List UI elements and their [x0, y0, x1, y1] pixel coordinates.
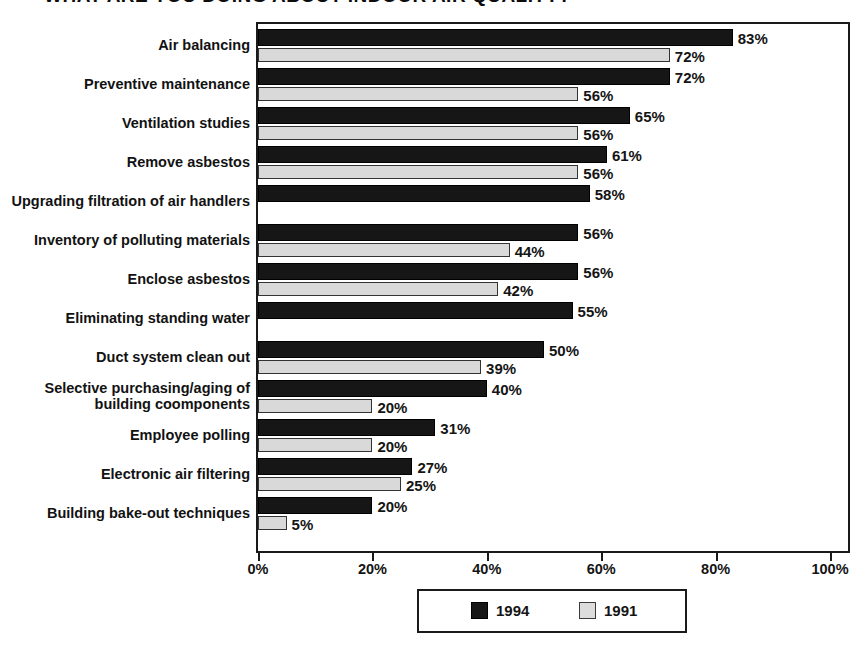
bar-value-label-1991: 20%: [377, 400, 407, 415]
bar-1994: [258, 107, 630, 124]
bar-value-label-1994: 50%: [549, 343, 579, 358]
x-axis-tick: [258, 553, 260, 561]
category-label: Air balancing: [0, 37, 250, 53]
category-label: Eliminating standing water: [0, 310, 250, 326]
bar-value-label-1994: 61%: [612, 148, 642, 163]
category-label: Employee polling: [0, 427, 250, 443]
category-axis-labels: Air balancingPreventive maintenanceVenti…: [0, 0, 250, 647]
category-label: Selective purchasing/aging of building c…: [0, 380, 250, 412]
category-label: Ventilation studies: [0, 115, 250, 131]
legend-swatch-icon-1994: [471, 602, 488, 619]
bar-1991: [258, 360, 481, 374]
legend-swatch-icon-1991: [579, 602, 596, 619]
bar-1994: [258, 458, 412, 475]
bar-1991: [258, 438, 372, 452]
bar-value-label-1991: 39%: [486, 361, 516, 376]
bar-1994: [258, 146, 607, 163]
bar-chart: Air balancingPreventive maintenanceVenti…: [0, 0, 866, 647]
chart-legend: 1994 1991: [417, 589, 687, 633]
x-axis-tick-label: 40%: [472, 561, 501, 577]
legend-label-1991: 1991: [604, 602, 637, 619]
bar-value-label-1991: 72%: [675, 49, 705, 64]
bar-1991: [258, 126, 578, 140]
x-axis-tick-label: 20%: [358, 561, 387, 577]
bar-value-label-1994: 31%: [440, 421, 470, 436]
bar-1994: [258, 341, 544, 358]
bar-1991: [258, 243, 510, 257]
bar-value-label-1991: 25%: [406, 478, 436, 493]
bar-1994: [258, 380, 487, 397]
category-label: Preventive maintenance: [0, 76, 250, 92]
bar-value-label-1991: 44%: [515, 244, 545, 259]
bar-value-label-1994: 56%: [583, 265, 613, 280]
x-axis-tick-labels: 0%20%40%60%80%100%: [0, 561, 866, 583]
x-axis-tick: [372, 553, 374, 561]
category-label: Electronic air filtering: [0, 466, 250, 482]
bar-1991: [258, 282, 498, 296]
bar-value-label-1991: 20%: [377, 439, 407, 454]
bar-value-label-1991: 42%: [503, 283, 533, 298]
bar-value-label-1994: 55%: [578, 304, 608, 319]
bar-1994: [258, 68, 670, 85]
bar-1994: [258, 302, 573, 319]
bar-1991: [258, 477, 401, 491]
bar-value-label-1991: 5%: [292, 517, 314, 532]
bar-value-label-1994: 72%: [675, 70, 705, 85]
bars-container: 83%72%72%56%65%56%61%56%58%56%44%56%42%5…: [258, 24, 848, 551]
bar-value-label-1991: 56%: [583, 127, 613, 142]
category-label: Inventory of polluting materials: [0, 232, 250, 248]
category-label: Enclose asbestos: [0, 271, 250, 287]
bar-1991: [258, 165, 578, 179]
bar-1994: [258, 29, 733, 46]
x-axis-tick: [487, 553, 489, 561]
bar-value-label-1991: 56%: [583, 88, 613, 103]
category-label: Remove asbestos: [0, 154, 250, 170]
bar-1994: [258, 263, 578, 280]
x-axis-tick-label: 80%: [701, 561, 730, 577]
legend-entry-1991: 1991: [579, 602, 637, 619]
bar-1991: [258, 48, 670, 62]
bar-value-label-1994: 40%: [492, 382, 522, 397]
x-axis-tick: [601, 553, 603, 561]
bar-value-label-1994: 56%: [583, 226, 613, 241]
bar-1991: [258, 516, 287, 530]
bar-value-label-1994: 83%: [738, 31, 768, 46]
category-label: Duct system clean out: [0, 349, 250, 365]
x-axis-tick-label: 100%: [811, 561, 848, 577]
bar-1994: [258, 419, 435, 436]
bar-value-label-1994: 20%: [377, 499, 407, 514]
x-axis-tick: [830, 553, 832, 561]
x-axis-tick: [716, 553, 718, 561]
bar-1991: [258, 87, 578, 101]
bar-value-label-1994: 65%: [635, 109, 665, 124]
legend-entry-1994: 1994: [471, 602, 529, 619]
bar-1991: [258, 399, 372, 413]
bar-1994: [258, 224, 578, 241]
bar-value-label-1994: 58%: [595, 187, 625, 202]
x-axis-tick-label: 0%: [248, 561, 269, 577]
bar-1994: [258, 185, 590, 202]
bar-value-label-1991: 56%: [583, 166, 613, 181]
x-axis-tick-label: 60%: [587, 561, 616, 577]
bar-1994: [258, 497, 372, 514]
category-label: Upgrading filtration of air handlers: [0, 193, 250, 209]
legend-label-1994: 1994: [496, 602, 529, 619]
bar-value-label-1994: 27%: [417, 460, 447, 475]
category-label: Building bake-out techniques: [0, 505, 250, 521]
